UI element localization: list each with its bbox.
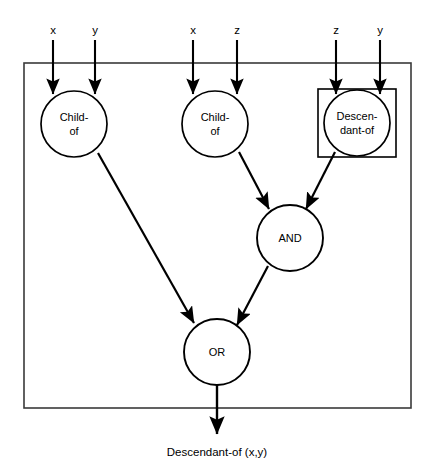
edge-childof2-to-and [239, 152, 269, 209]
node-descendantof[interactable]: Descen- dant-of [324, 90, 390, 156]
node-childof-1[interactable]: Child- of [41, 91, 107, 157]
edge-descendantof-to-and [306, 152, 335, 209]
diagram-root: x y x z z y Child- of Child- of [0, 0, 435, 474]
edge-and-to-or [237, 266, 268, 325]
input-label-x-1: x [50, 24, 56, 36]
diagram-canvas: x y x z z y Child- of Child- of [0, 0, 435, 474]
node-or-gate[interactable]: OR [184, 319, 250, 385]
node-childof-2-label-line1: Child- [201, 111, 230, 123]
input-label-z-3: z [333, 24, 339, 36]
node-childof-2[interactable]: Child- of [182, 91, 248, 157]
node-and-gate-label: AND [278, 232, 301, 244]
input-label-x-2: x [190, 24, 196, 36]
node-or-gate-label: OR [209, 346, 226, 358]
node-childof-1-label-line1: Child- [60, 111, 89, 123]
input-label-z-2: z [234, 24, 240, 36]
node-descendantof-label-line2: dant-of [340, 124, 375, 136]
node-childof-2-label-line2: of [210, 125, 220, 137]
input-label-y-1: y [92, 24, 98, 36]
input-label-y-3: y [377, 24, 383, 36]
node-childof-1-label-line2: of [69, 125, 79, 137]
edge-childof1-to-or [98, 153, 194, 323]
node-and-gate[interactable]: AND [257, 205, 323, 271]
node-descendantof-label-line1: Descen- [337, 110, 378, 122]
input-arrows-group [53, 40, 380, 94]
output-caption: Descendant-of (x,y) [167, 446, 268, 458]
